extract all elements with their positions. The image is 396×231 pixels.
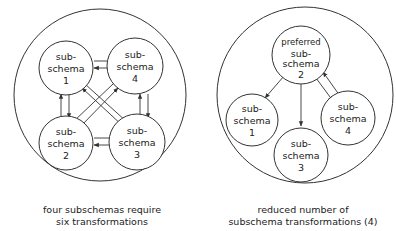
right-diagram: preferred sub- schema 2 sub- schema 1 su… <box>217 7 393 227</box>
svg-text:sub-: sub- <box>56 51 76 62</box>
left-diagram: sub- schema 1 sub- schema 4 sub- schema … <box>14 9 186 227</box>
left-node-4: sub- schema 4 <box>107 38 163 94</box>
svg-text:schema: schema <box>118 137 155 148</box>
svg-text:2: 2 <box>298 69 304 80</box>
svg-text:schema: schema <box>47 63 84 74</box>
left-node-1: sub- schema 1 <box>39 41 93 95</box>
svg-text:sub-: sub- <box>125 49 145 60</box>
svg-text:3: 3 <box>298 162 304 173</box>
svg-text:schema: schema <box>116 61 153 72</box>
svg-text:1: 1 <box>63 75 69 86</box>
left-caption-line-1: four subschemas require <box>43 204 161 215</box>
left-node-2: sub- schema 2 <box>39 116 93 170</box>
left-caption-line-2: six transformations <box>56 216 148 227</box>
svg-text:schema: schema <box>47 138 84 149</box>
diagram-canvas: sub- schema 1 sub- schema 4 sub- schema … <box>0 0 396 231</box>
svg-text:schema: schema <box>329 113 366 124</box>
right-node-4: sub- schema 4 <box>321 91 375 145</box>
svg-text:schema: schema <box>282 150 319 161</box>
svg-text:3: 3 <box>134 149 140 160</box>
svg-text:sub-: sub- <box>56 126 76 137</box>
svg-text:4: 4 <box>345 125 351 136</box>
svg-text:4: 4 <box>132 73 138 84</box>
right-node-1: sub- schema 1 <box>226 94 278 146</box>
svg-text:2: 2 <box>63 150 69 161</box>
right-node-3: sub- schema 3 <box>274 128 328 182</box>
svg-text:schema: schema <box>282 58 319 69</box>
svg-text:preferred: preferred <box>281 37 320 47</box>
svg-text:sub-: sub- <box>242 103 262 114</box>
right-node-preferred-2: preferred sub- schema 2 <box>272 26 330 84</box>
right-caption-line-1: reduced number of <box>258 204 350 215</box>
svg-text:1: 1 <box>249 127 255 138</box>
svg-text:sub-: sub- <box>291 138 311 149</box>
svg-text:sub-: sub- <box>338 101 358 112</box>
svg-text:sub-: sub- <box>127 125 147 136</box>
left-node-3: sub- schema 3 <box>109 114 165 170</box>
right-caption-line-2: subschema transformations (4) <box>228 216 377 227</box>
svg-text:schema: schema <box>233 115 270 126</box>
